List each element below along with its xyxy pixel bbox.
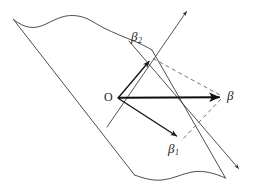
- vector-beta: [119, 97, 220, 98]
- beta2-label-subscript: 2: [138, 36, 142, 45]
- dashed-construction: [153, 59, 221, 142]
- dashed-beta2-to-beta-line: [153, 59, 220, 96]
- axis-line-up-right-icon: [107, 12, 187, 128]
- beta1-label-subscript: 1: [175, 148, 179, 157]
- beta1-label: β1: [168, 142, 179, 157]
- vector-beta2: [119, 62, 150, 98]
- beta1-label-base: β: [168, 141, 174, 156]
- beta-label: β: [227, 89, 233, 102]
- plane-edge-right: [152, 50, 226, 178]
- vector-decomposition-figure: O β β1 β2: [0, 0, 256, 191]
- diagram-canvas: [0, 0, 256, 191]
- plane-edge-bottom-wavy: [135, 171, 226, 180]
- beta2-label-base: β: [131, 29, 137, 44]
- origin-label: O: [104, 91, 113, 103]
- plane-edge-left: [14, 20, 135, 176]
- vector-beta1: [119, 99, 177, 137]
- vectors-group: [119, 62, 220, 137]
- axis-line-down-right-icon: [129, 41, 239, 169]
- beta2-label: β2: [131, 30, 142, 45]
